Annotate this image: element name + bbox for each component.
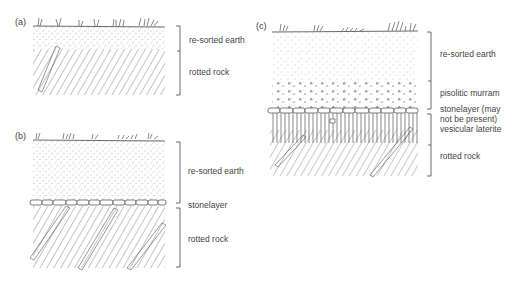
- layer-label-stonelayer-note: not be present): [440, 114, 497, 124]
- layer-label-rotted-rock: rotted rock: [188, 234, 228, 244]
- layer-label-vesicular-laterite: vesicular laterite: [440, 124, 501, 134]
- panel-c-bracket: [427, 32, 431, 176]
- panel-b-label: (b): [15, 131, 26, 141]
- panel-a-label: (a): [15, 17, 26, 27]
- panel-c-label: (c): [256, 21, 267, 31]
- soil-profile-drawings: [0, 0, 513, 282]
- layer-label-re-sorted-earth: re-sorted earth: [440, 49, 496, 59]
- panel-a-bracket: [176, 26, 180, 95]
- layer-label-re-sorted-earth: re-sorted earth: [188, 166, 244, 176]
- panel-b-bracket: [176, 142, 180, 267]
- layer-label-rotted-rock: rotted rock: [189, 67, 229, 77]
- panel-b-drawing: [30, 133, 166, 270]
- layer-label-pisolitic-murram: pisolitic murram: [440, 88, 500, 98]
- layer-label-stonelayer: stonelayer (may: [440, 104, 500, 114]
- layer-label-rotted-rock: rotted rock: [440, 151, 480, 161]
- panel-a-drawing: [33, 18, 165, 95]
- layer-label-stonelayer: stonelayer: [188, 200, 227, 210]
- panel-c-drawing: [268, 21, 418, 177]
- layer-label-re-sorted-earth: re-sorted earth: [189, 35, 245, 45]
